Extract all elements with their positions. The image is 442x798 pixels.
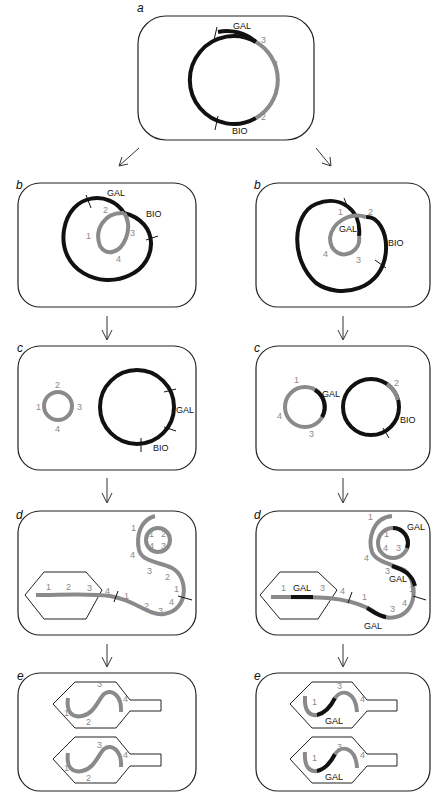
inner-site-2-label: 2: [161, 529, 166, 539]
panel-label: a: [137, 1, 144, 15]
site-2-label: 2: [103, 205, 108, 215]
site-1-label: 1: [64, 708, 69, 718]
phage-dna: [68, 692, 121, 716]
site-3-label: 3: [385, 566, 390, 576]
panel-c-right: c 1 GAL 4 3 2 BIO: [254, 341, 430, 470]
panel-e-right: e 1 3 4 GAL 1 3 4 GAL: [254, 669, 430, 791]
site-1-label: 1: [294, 375, 299, 385]
site-2-label: 2: [55, 380, 60, 390]
inner-site-3-label: 3: [396, 543, 401, 553]
site-1-label: 1: [131, 523, 136, 533]
site-3-label: 3: [309, 429, 314, 439]
panel-label: e: [17, 669, 24, 683]
site-1-label: 1: [312, 697, 317, 707]
inner-site-1-label: 1: [149, 529, 154, 539]
phage-dna: [68, 747, 121, 771]
excised-phage-circle: [44, 392, 72, 420]
transducing-particle-2: 1 3 4 GAL: [290, 737, 397, 783]
site-1-label: 1: [86, 231, 91, 241]
panel-label: b: [16, 178, 23, 192]
site-1-label: 1: [409, 584, 414, 594]
site-2-label: 2: [86, 717, 91, 727]
site-2-label: 2: [394, 378, 399, 388]
site-2-label: 2: [144, 601, 149, 611]
prophage-loop: [98, 213, 128, 252]
site-3-label: 3: [97, 740, 102, 750]
inner-site-3-label: 3: [161, 541, 166, 551]
panel-label: b: [254, 178, 261, 192]
panel-d-right: d 1 GAL 3 4 1 GAL 3 4 1 GAL 3 4 1 GAL 1 …: [254, 508, 430, 635]
panel-label: e: [254, 669, 261, 683]
bio-label: BIO: [400, 415, 416, 425]
site-4-label: 4: [105, 586, 110, 596]
site-3-label: 3: [87, 583, 92, 593]
arrow-a-to-b-left: [119, 148, 139, 166]
panel-label: c: [254, 341, 260, 355]
arrow-b-to-c-left: [102, 316, 112, 340]
site-3-label: 3: [261, 35, 266, 45]
site-3-label: 3: [356, 255, 361, 265]
gal-label: GAL: [325, 716, 343, 726]
arrow-a-to-b-right: [316, 148, 331, 166]
gal-segment-bottom: [367, 608, 386, 617]
arrow-b-to-c-right: [338, 316, 348, 340]
site-3-label: 3: [97, 679, 102, 689]
panel-a: a GAL BIO 3 4 1 2: [137, 1, 314, 140]
prophage-dna: [256, 42, 278, 118]
site-2-label: 2: [368, 207, 373, 217]
site-4-label: 4: [360, 694, 365, 704]
site-4-label: 4: [123, 694, 128, 704]
phage-dna-right: [335, 693, 357, 712]
site-1-label: 1: [281, 583, 286, 593]
site-2-label: 2: [66, 582, 71, 592]
site-1-label: 1: [368, 512, 373, 522]
site-1-label: 1: [36, 402, 41, 412]
bio-label: BIO: [232, 126, 248, 136]
site-4-label: 4: [273, 59, 278, 69]
site-4-label: 4: [277, 411, 282, 421]
site-1-label: 1: [64, 763, 69, 773]
site-3-label: 3: [158, 606, 163, 616]
inner-site-4-label: 4: [383, 543, 388, 553]
site-3-label: 3: [390, 604, 395, 614]
site-3-label: 3: [130, 228, 135, 238]
inner-site-4-label: 4: [149, 541, 154, 551]
site-1-label: 1: [124, 591, 129, 601]
site-1-label: 1: [362, 592, 367, 602]
site-3-label: 3: [320, 583, 325, 593]
site-2-label: 2: [86, 773, 91, 783]
arrow-d-to-e-left: [102, 644, 112, 667]
site-2-label: 2: [165, 572, 170, 582]
gal-label-head: GAL: [293, 583, 311, 593]
gal-label: GAL: [176, 405, 194, 415]
site-1-label: 1: [312, 753, 317, 763]
arrow-c-to-d-left: [102, 478, 112, 503]
gal-label: GAL: [107, 188, 125, 198]
panel-b-right: b 1 2 GAL BIO 4 3: [254, 178, 430, 307]
site-3-label: 3: [147, 566, 152, 576]
site-4-label: 4: [360, 750, 365, 760]
gal-label: GAL: [339, 224, 357, 234]
bio-label: BIO: [153, 443, 169, 453]
panel-c-left: c 2 1 3 4 GAL BIO: [17, 341, 196, 470]
inner-site-1-label: 1: [384, 529, 389, 539]
gal-label: GAL: [233, 21, 251, 31]
phage-particle-2: 3 4 1 2: [53, 737, 161, 783]
site-4-label: 4: [123, 750, 128, 760]
panel-label: d: [16, 508, 23, 522]
arrow-d-to-e-right: [338, 644, 348, 667]
lambda-transduction-diagram: a GAL BIO 3 4 1 2 b GAL BIO 2 1 3 4: [0, 0, 442, 798]
gal-label-circle: GAL: [407, 522, 425, 532]
bio-label: BIO: [146, 209, 162, 219]
gal-segment: [317, 754, 335, 771]
site-2-label: 2: [261, 112, 266, 122]
panel-e-left: e 3 4 1 2 3 4 1 2: [17, 669, 196, 791]
panel-label: c: [17, 341, 23, 355]
panel-b-left: b GAL BIO 2 1 3 4: [16, 178, 196, 307]
host-chromosome: [190, 36, 256, 124]
panel-d-left: d 1 2 3 4 1 2 3 4 1 2 3 4 1 1 2 4 3: [16, 508, 196, 635]
site-3-label: 3: [77, 402, 82, 412]
site-4-label: 4: [323, 249, 328, 259]
site-4-label: 4: [55, 424, 60, 434]
site-3-label: 3: [337, 742, 342, 752]
